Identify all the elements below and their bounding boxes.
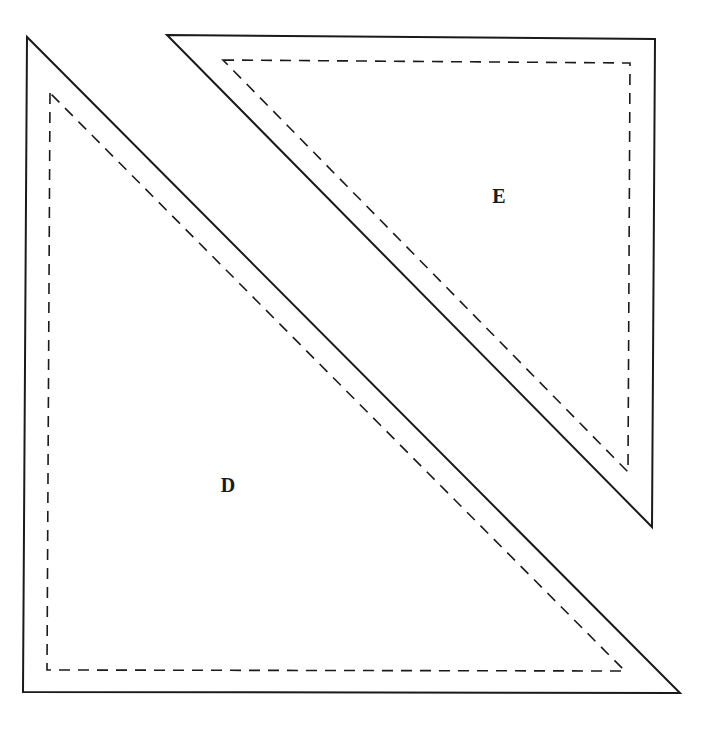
piece-e-seam-line — [223, 60, 630, 472]
piece-e: E — [167, 35, 655, 527]
piece-d-seam-line — [47, 93, 625, 671]
pattern-diagram: D E — [0, 0, 714, 730]
piece-e-cut-line — [167, 35, 655, 527]
piece-e-label: E — [492, 185, 505, 207]
piece-d-label: D — [221, 474, 235, 496]
pattern-svg: D E — [0, 0, 714, 730]
piece-d: D — [23, 37, 680, 693]
piece-d-cut-line — [23, 37, 680, 693]
